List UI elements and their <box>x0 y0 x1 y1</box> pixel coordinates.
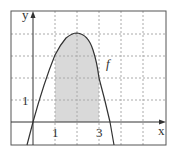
y-axis-arrow-icon <box>31 11 36 18</box>
x-axis-label: x <box>158 124 165 137</box>
tick-label-x1: 1 <box>52 126 59 139</box>
tick-label-x3: 3 <box>96 126 103 139</box>
graph <box>0 0 175 152</box>
tick-label-y1: 1 <box>22 94 29 107</box>
function-label: f <box>106 57 110 70</box>
grid <box>11 11 166 145</box>
y-axis-label: y <box>22 8 29 21</box>
